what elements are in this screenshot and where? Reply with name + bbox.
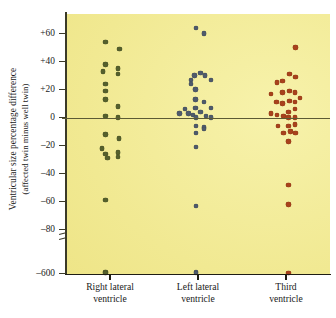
category-label-line2: ventricle [64,293,156,305]
y-axis-tick [59,273,65,274]
data-point [116,66,120,70]
data-point [293,131,297,135]
data-point [116,155,120,159]
data-point [269,111,273,115]
category-label-line2: ventricle [240,293,332,305]
data-point [101,69,105,73]
data-point [103,62,107,66]
data-point [293,45,297,49]
data-point [280,101,284,105]
y-axis-tick-label: 0 [50,113,55,122]
data-point [293,122,297,126]
category-label-line2: ventricle [152,293,244,305]
y-axis-tick [59,33,65,34]
data-point [281,131,285,135]
data-point [203,73,207,77]
y-axis-tick [59,117,65,118]
x-axis-tick [197,275,198,280]
y-axis-tick-label: –40 [41,169,55,178]
data-point [103,97,107,101]
data-point [286,202,290,206]
data-point [198,110,202,114]
data-point [280,79,284,83]
data-point [177,111,181,115]
zero-reference-line [62,118,330,119]
data-point [286,183,290,187]
y-axis-tick-label: –60 [41,197,55,206]
data-point [193,87,197,91]
data-point [288,129,292,133]
data-point [103,40,107,44]
x-axis-category-label: Left lateralventricle [152,281,244,304]
x-axis-category-label: Thirdventricle [240,281,332,304]
data-point [293,90,297,94]
y-axis-tick-label: –80 [41,225,55,234]
data-point [293,75,297,79]
y-axis-tick-label: –20 [41,141,55,150]
category-label-line1: Left lateral [152,281,244,293]
category-label-line1: Third [240,281,332,293]
data-point [280,90,284,94]
data-point [186,111,190,115]
plot-background [66,14,330,274]
axis-break-icon [58,232,68,246]
data-point [103,89,107,93]
data-point [117,47,121,51]
data-point [105,156,109,160]
y-axis-tick [59,61,65,62]
x-axis-tick [285,275,286,280]
y-axis-tick-label: +40 [40,57,55,66]
data-point [286,110,290,114]
y-axis-title: Ventricular size percentage difference (… [0,0,38,278]
data-point [100,146,104,150]
data-point [286,139,290,143]
y-axis-tick [59,145,65,146]
x-axis-tick [109,275,110,280]
data-point [103,82,107,86]
y-axis-tick [59,201,65,202]
y-axis-tick [59,89,65,90]
data-point [116,104,120,108]
data-point [286,124,290,128]
plot-area [66,14,330,274]
data-point [117,136,121,140]
y-axis-tick-label: +20 [40,85,55,94]
y-axis-tick [59,173,65,174]
category-label-line1: Right lateral [64,281,156,293]
y-axis-tick-label: –600 [36,269,55,278]
y-axis-tick-label: +60 [40,29,55,38]
y-axis-title-line2: (affected twin minus well twin) [20,84,30,195]
data-point [274,100,278,104]
data-point [287,89,291,93]
data-point [103,132,107,136]
y-axis-title-line1: Ventricular size percentage difference [8,68,18,210]
scatter-plot-figure: Ventricular size percentage difference (… [0,0,336,318]
x-axis-category-label: Right lateralventricle [64,281,156,304]
data-point [193,97,197,101]
data-point [287,99,291,103]
data-point [192,73,196,77]
y-axis-tick [59,229,65,230]
data-point [193,106,197,110]
